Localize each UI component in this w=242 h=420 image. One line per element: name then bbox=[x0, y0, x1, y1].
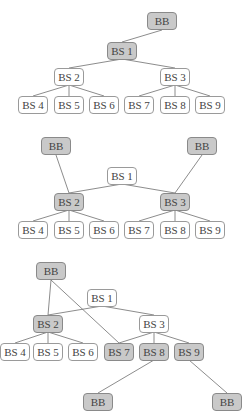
node-bb-bottom-right: BB bbox=[212, 393, 242, 411]
node-bs8: BS 8 bbox=[160, 96, 190, 114]
node-bs2: BS 2 bbox=[54, 68, 84, 86]
node-bs6: BS 6 bbox=[68, 343, 98, 361]
node-bs4: BS 4 bbox=[18, 96, 48, 114]
node-bs1: BS 1 bbox=[87, 289, 117, 307]
node-bs6: BS 6 bbox=[89, 221, 119, 239]
node-bs3: BS 3 bbox=[160, 68, 190, 86]
node-bs6: BS 6 bbox=[89, 96, 119, 114]
node-bs2: BS 2 bbox=[33, 315, 63, 333]
node-bs4: BS 4 bbox=[18, 221, 48, 239]
node-bs5: BS 5 bbox=[54, 96, 84, 114]
node-bb-left: BB bbox=[41, 137, 71, 155]
node-bs9: BS 9 bbox=[195, 96, 225, 114]
node-bb-bottom-left: BB bbox=[83, 393, 113, 411]
node-bs2: BS 2 bbox=[54, 193, 84, 211]
node-bs7: BS 7 bbox=[124, 96, 154, 114]
node-bs9: BS 9 bbox=[195, 221, 225, 239]
node-bs7: BS 7 bbox=[124, 221, 154, 239]
node-bs1: BS 1 bbox=[107, 42, 137, 60]
node-bs8: BS 8 bbox=[139, 343, 169, 361]
node-bb: BB bbox=[147, 12, 177, 30]
node-bs9: BS 9 bbox=[174, 343, 204, 361]
node-bs1: BS 1 bbox=[107, 167, 137, 185]
node-bs3: BS 3 bbox=[160, 193, 190, 211]
node-bs5: BS 5 bbox=[54, 221, 84, 239]
node-bs4: BS 4 bbox=[0, 343, 30, 361]
node-bs7: BS 7 bbox=[104, 343, 134, 361]
node-bs8: BS 8 bbox=[160, 221, 190, 239]
node-bs3: BS 3 bbox=[139, 315, 169, 333]
node-bb-right: BB bbox=[187, 137, 217, 155]
node-bs5: BS 5 bbox=[33, 343, 63, 361]
node-bb-top: BB bbox=[36, 262, 66, 280]
